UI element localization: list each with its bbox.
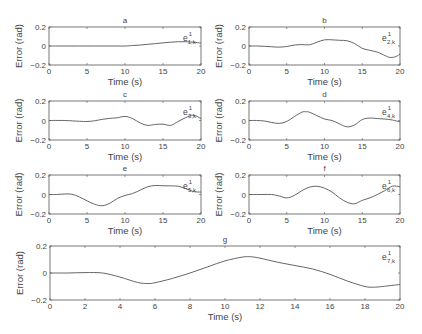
legend-label: e17,k (382, 250, 396, 264)
x-tick-label: 20 (197, 67, 206, 76)
y-tick-label: 0.2 (36, 242, 48, 251)
x-tick-label: 20 (396, 67, 405, 76)
x-tick-label: 6 (153, 302, 158, 311)
y-axis-label: Error (rad) (213, 24, 224, 68)
y-tick-label: −0.2 (230, 210, 246, 219)
x-tick-label: 15 (358, 67, 367, 76)
y-tick-label: 0.2 (35, 23, 47, 32)
x-tick-label: 20 (396, 302, 405, 311)
x-tick-label: 14 (291, 302, 300, 311)
error-line-f (249, 186, 400, 204)
legend-label: e15,k (183, 179, 197, 193)
axes-box (249, 101, 400, 140)
x-tick-label: 15 (159, 67, 168, 76)
x-tick-label: 5 (85, 142, 90, 151)
x-tick-label: 15 (159, 216, 168, 225)
x-tick-label: 5 (85, 67, 90, 76)
error-line-b (249, 40, 400, 58)
y-tick-label: 0.2 (235, 23, 247, 32)
figure: a05101520−0.200.2Time (s)Error (rad)e11,… (0, 0, 422, 334)
subplot-c: c05101520−0.200.2Time (s)Error (rad)e13,… (13, 90, 206, 162)
y-tick-label: −0.2 (30, 210, 46, 219)
x-axis-label: Time (s) (307, 76, 341, 87)
x-tick-label: 20 (197, 216, 206, 225)
legend-label: e12,k (382, 31, 396, 45)
x-tick-label: 10 (121, 67, 130, 76)
y-tick-label: −0.2 (30, 61, 46, 70)
x-tick-label: 8 (188, 302, 193, 311)
y-axis-label: Error (rad) (14, 251, 25, 295)
subplot-title: f (323, 164, 326, 173)
x-axis-label: Time (s) (208, 311, 242, 322)
x-tick-label: 2 (83, 302, 88, 311)
error-line-e (49, 185, 201, 205)
x-tick-label: 5 (85, 216, 90, 225)
subplot-a: a05101520−0.200.2Time (s)Error (rad)e11,… (13, 16, 206, 87)
subplot-b: b05101520−0.200.2Time (s)Error (rad)e12,… (213, 16, 405, 87)
x-axis-label: Time (s) (108, 151, 142, 162)
x-tick-label: 10 (320, 67, 329, 76)
y-tick-label: 0.2 (35, 97, 47, 106)
y-tick-label: 0 (43, 269, 48, 278)
x-axis-label: Time (s) (307, 151, 341, 162)
y-tick-label: 0 (42, 191, 47, 200)
subplot-title: g (223, 235, 227, 244)
subplot-f: f05101520−0.200.2Time (s)Error (rad)e16,… (213, 164, 405, 236)
y-tick-label: 0 (242, 42, 247, 51)
subplot-e: e05101520−0.200.2Time (s)Error (rad)e15,… (13, 164, 206, 236)
x-tick-label: 0 (47, 142, 52, 151)
x-tick-label: 0 (48, 302, 53, 311)
subplot-title: b (322, 16, 327, 25)
x-tick-label: 12 (256, 302, 265, 311)
x-tick-label: 0 (247, 216, 252, 225)
error-line-a (49, 42, 201, 46)
legend-label: e11,k (183, 31, 197, 45)
subplot-title: c (123, 90, 127, 99)
y-tick-label: −0.2 (230, 61, 246, 70)
legend-label: e14,k (382, 105, 396, 119)
x-tick-label: 20 (396, 142, 405, 151)
y-tick-label: −0.2 (30, 136, 46, 145)
y-axis-label: Error (rad) (13, 24, 24, 68)
error-line-g (50, 257, 400, 288)
x-tick-label: 10 (121, 216, 130, 225)
x-tick-label: 5 (285, 67, 290, 76)
subplot-title: e (123, 164, 128, 173)
subplot-g: g02468101214161820−0.200.2Time (s)Error … (14, 235, 405, 322)
x-tick-label: 5 (285, 142, 290, 151)
x-tick-label: 0 (47, 67, 52, 76)
x-tick-label: 10 (121, 142, 130, 151)
y-axis-label: Error (rad) (213, 173, 224, 217)
x-axis-label: Time (s) (108, 76, 142, 87)
x-tick-label: 16 (326, 302, 335, 311)
x-tick-label: 10 (320, 142, 329, 151)
axes-box (249, 27, 400, 65)
legend-label: e13,k (183, 105, 197, 119)
subplot-d: d05101520−0.200.2Time (s)Error (rad)e14,… (213, 90, 405, 162)
y-tick-label: 0 (42, 117, 47, 126)
x-tick-label: 20 (197, 142, 206, 151)
x-axis-label: Time (s) (108, 225, 142, 236)
x-tick-label: 10 (320, 216, 329, 225)
subplot-title: d (322, 90, 326, 99)
y-axis-label: Error (rad) (13, 99, 24, 143)
x-tick-label: 10 (221, 302, 230, 311)
x-tick-label: 5 (285, 216, 290, 225)
y-tick-label: −0.2 (230, 136, 246, 145)
y-tick-label: 0 (42, 42, 47, 51)
y-tick-label: 0.2 (235, 171, 247, 180)
x-tick-label: 0 (247, 142, 252, 151)
x-tick-label: 20 (396, 216, 405, 225)
y-axis-label: Error (rad) (213, 99, 224, 143)
y-tick-label: −0.2 (31, 296, 47, 305)
x-tick-label: 0 (247, 67, 252, 76)
x-tick-label: 15 (159, 142, 168, 151)
subplot-title: a (123, 16, 128, 25)
y-tick-label: 0 (242, 191, 247, 200)
y-axis-label: Error (rad) (13, 173, 24, 217)
x-axis-label: Time (s) (307, 225, 341, 236)
x-tick-label: 18 (361, 302, 370, 311)
error-line-d (249, 112, 400, 127)
x-tick-label: 0 (47, 216, 52, 225)
y-tick-label: 0.2 (35, 171, 47, 180)
